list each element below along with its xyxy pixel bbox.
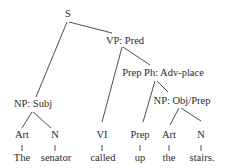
word-called: called	[90, 152, 115, 164]
word-the-2: the	[163, 152, 176, 164]
node-np-subj: NP: Subj	[14, 98, 52, 110]
node-art-1: Art	[15, 129, 29, 141]
node-s: S	[65, 8, 71, 20]
edge-npobj-art	[170, 108, 179, 125]
node-n-2: N	[197, 129, 205, 141]
edge-vp-prepph	[123, 47, 150, 65]
edge-vp-vi	[102, 47, 122, 122]
tree-edges	[0, 0, 226, 168]
node-vp-pred: VP: Pred	[106, 35, 144, 47]
node-prep-ph: Prep Ph: Adv-place	[122, 67, 204, 79]
node-vi: VI	[96, 129, 107, 141]
node-art-2: Art	[162, 129, 176, 141]
edge-s-vp	[69, 22, 112, 33]
edge-npsubj-n	[33, 112, 51, 128]
word-senator: senator	[41, 152, 71, 164]
edge-npobj-n	[181, 108, 201, 121]
edge-npsubj-art	[22, 112, 32, 128]
edge-s-npsubj	[36, 22, 67, 97]
node-n-1: N	[51, 129, 59, 141]
word-up: up	[135, 152, 146, 164]
node-prep: Prep	[130, 129, 149, 141]
word-stairs: stairs.	[190, 152, 215, 164]
edge-prepph-npobj	[157, 81, 168, 92]
node-np-obj: NP: Obj/Prep	[154, 95, 211, 107]
word-the: The	[14, 152, 30, 164]
